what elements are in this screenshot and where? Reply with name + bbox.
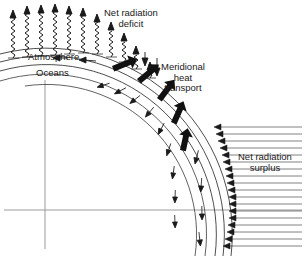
- incoming-arrow: [229, 201, 302, 207]
- ocean-arrow: [172, 215, 177, 228]
- incoming-arrow: [228, 187, 302, 193]
- outgoing-arrow: [64, 6, 75, 54]
- incoming-arrow: [218, 138, 302, 144]
- arc-deep-ocean: [25, 84, 197, 256]
- incoming-arrow: [226, 173, 302, 179]
- label-net-radiation-deficit: Net radiation deficit: [104, 8, 158, 29]
- incoming-arrow: [225, 236, 302, 242]
- incoming-arrow: [223, 243, 302, 249]
- arc-ocean-mid: [0, 74, 207, 256]
- ocean-arrow: [193, 150, 201, 165]
- ocean-arrow: [170, 166, 177, 180]
- outgoing-arrow: [78, 8, 89, 53]
- incoming-radiation-arrows: [214, 124, 302, 249]
- incoming-arrow: [228, 222, 302, 228]
- label-meridional-heat-transport: Meridional heat transport: [161, 62, 205, 94]
- label-oceans: Oceans: [36, 68, 69, 79]
- label-atmosphere: Atmosphere: [28, 52, 79, 63]
- label-net-radiation-surplus: Net radiation surplus: [238, 152, 292, 173]
- ocean-arrow: [96, 81, 110, 90]
- incoming-arrow: [227, 180, 302, 186]
- incoming-arrow: [214, 124, 302, 130]
- incoming-arrow: [216, 131, 302, 137]
- outgoing-arrow: [50, 4, 61, 55]
- incoming-arrow: [229, 208, 302, 214]
- ocean-arrow: [164, 143, 173, 157]
- ocean-arrow: [144, 106, 156, 119]
- radiation-balance-diagram: Net radiation deficit Meridional heat tr…: [0, 0, 306, 256]
- incoming-arrow: [227, 229, 302, 235]
- ocean-arrow: [172, 190, 177, 203]
- ocean-flow-arrows: [96, 81, 204, 246]
- ocean-arrow: [199, 206, 204, 220]
- incoming-arrow: [229, 194, 302, 200]
- outgoing-arrow: [92, 14, 103, 54]
- absorbed-arrow: [142, 52, 148, 66]
- incoming-arrow: [229, 215, 302, 221]
- ocean-arrow: [196, 232, 203, 246]
- diagram-canvas: [0, 0, 306, 256]
